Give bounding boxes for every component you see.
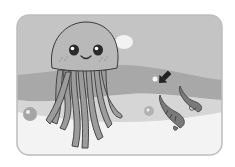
sun-bubble	[115, 35, 133, 49]
bubble-small	[153, 77, 158, 82]
bubble-left	[23, 107, 37, 121]
jellyfish-illustration	[0, 0, 235, 167]
card-frame	[17, 15, 222, 155]
